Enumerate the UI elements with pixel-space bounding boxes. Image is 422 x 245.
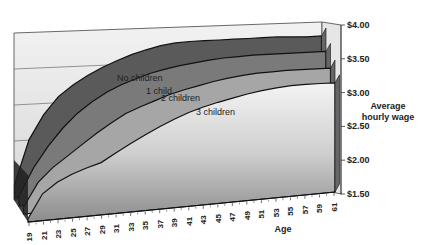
x-tick-label: 43 (199, 215, 208, 224)
x-axis-title: Age (274, 224, 291, 234)
series-label: No children (117, 73, 163, 83)
x-tick-label: 59 (315, 203, 324, 212)
x-tick-label: 47 (228, 212, 237, 221)
series-label: 2 children (161, 93, 200, 103)
y-axis-title-line1: Average (370, 101, 405, 111)
x-tick-label: 19 (25, 232, 34, 241)
y-tick-label: $4.00 (347, 20, 370, 30)
wage-area-chart: $4.00$3.50$3.00$2.50$2.00$1.50 192123252… (0, 0, 422, 245)
y-tick-label: $2.50 (347, 121, 370, 131)
x-tick-label: 49 (243, 211, 252, 220)
y-tick-label: $1.50 (347, 189, 370, 199)
x-tick-label: 21 (40, 231, 49, 240)
x-tick-label: 31 (112, 223, 121, 232)
x-tick-label: 55 (286, 206, 295, 215)
y-tick-label: $3.00 (347, 88, 370, 98)
x-tick-label: 27 (83, 226, 92, 235)
x-tick-label: 39 (170, 218, 179, 227)
y-tick-label: $3.50 (347, 54, 370, 64)
x-tick-label: 61 (330, 202, 339, 211)
y-axis-title-line2: hourly wage (362, 112, 415, 122)
x-tick-label: 35 (141, 221, 150, 230)
x-tick-label: 57 (301, 205, 310, 214)
series-label: 3 children (196, 107, 235, 117)
x-tick-label: 37 (156, 219, 165, 228)
x-tick-label: 45 (214, 213, 223, 222)
y-axis: $4.00$3.50$3.00$2.50$2.00$1.50 (341, 20, 370, 199)
x-tick-label: 23 (54, 229, 63, 238)
x-tick-label: 53 (272, 208, 281, 217)
x-tick-label: 51 (257, 209, 266, 218)
x-tick-label: 41 (185, 216, 194, 225)
x-tick-label: 25 (69, 228, 78, 237)
y-tick-label: $2.00 (347, 155, 370, 165)
x-tick-label: 33 (127, 222, 136, 231)
x-tick-label: 29 (98, 225, 107, 234)
